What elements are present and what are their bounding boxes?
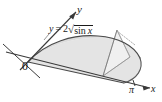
equation-equals-sign: = — [55, 24, 61, 34]
radicand: sinx — [74, 25, 93, 37]
diagram-canvas — [0, 0, 162, 102]
origin-label: 0 — [22, 60, 28, 72]
curve-equation-label: y = 2 √ sinx — [49, 24, 93, 37]
x-axis-tick-label-pi: π — [129, 85, 134, 95]
radical-group: √ sinx — [68, 24, 93, 37]
x-axis-arrowhead — [143, 86, 151, 91]
radicand-function: sin — [74, 25, 86, 36]
y-axis-label: y — [77, 4, 82, 15]
x-axis-label: x — [151, 84, 155, 94]
radicand-variable: x — [88, 25, 92, 36]
equation-lhs: y — [49, 24, 53, 34]
solid-of-known-cross-section-figure: y x 0 π y = 2 √ sinx — [0, 0, 162, 102]
